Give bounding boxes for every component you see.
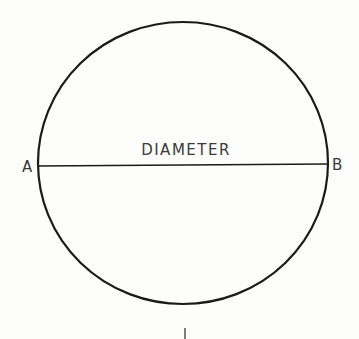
circle-diagram: DIAMETER A B [0,0,359,339]
diameter-label: DIAMETER [141,141,231,159]
circle [38,22,328,304]
point-a-label: A [22,158,33,176]
diameter-line [38,164,328,166]
point-b-label: B [332,156,342,174]
